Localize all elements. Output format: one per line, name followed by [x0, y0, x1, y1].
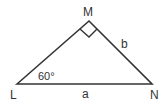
right-angle-marker — [80, 29, 97, 37]
side-label-b: b — [121, 37, 128, 51]
triangle-diagram: M L N a b 60° — [0, 0, 167, 101]
vertex-label-l: L — [10, 88, 17, 101]
angle-label-l: 60° — [38, 70, 55, 82]
vertex-label-m: M — [83, 5, 93, 19]
vertex-label-n: N — [150, 88, 159, 101]
side-label-a: a — [82, 87, 89, 101]
